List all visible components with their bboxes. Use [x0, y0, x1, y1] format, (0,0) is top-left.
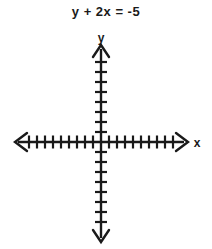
axes-diagram: y x [0, 0, 212, 249]
x-axis-label: x [194, 136, 201, 150]
coordinate-plane-figure: y + 2x = -5 [0, 0, 212, 249]
y-axis-label: y [98, 31, 105, 45]
